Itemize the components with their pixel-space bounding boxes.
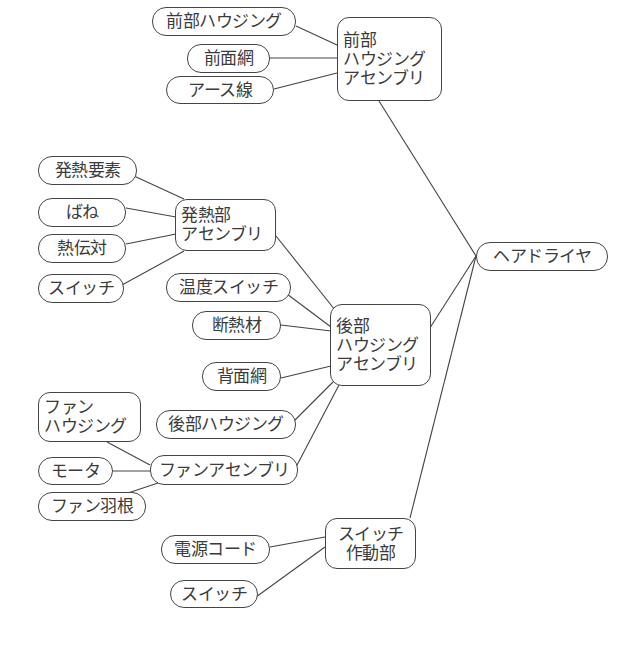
node-heater-assembly: 発熱部 アセンブリ — [175, 199, 276, 251]
edge-front-housing-to-front-assembly — [296, 26, 337, 45]
edge-rear-housing-to-rear-assembly — [294, 382, 333, 421]
node-fan-blade: ファン羽根 — [38, 492, 146, 521]
node-hairdryer: ヘアドライヤ — [476, 242, 608, 271]
node-label: ファンアセンブリ — [159, 461, 290, 480]
node-rear-housing-assembly: 後部 ハウジング アセンブリ — [330, 304, 431, 386]
node-label: ファン ハウジング — [44, 398, 127, 436]
node-label: ばね — [66, 203, 99, 222]
edge-rear-assembly-to-hairdryer — [426, 256, 476, 334]
node-label: 前部ハウジング — [166, 12, 282, 31]
node-switch-actuator: スイッチ 作動部 — [325, 518, 416, 569]
node-label: 発熱部 アセンブリ — [181, 206, 263, 244]
node-label: 後部 ハウジング アセンブリ — [336, 317, 419, 374]
node-label: ヘアドライヤ — [493, 247, 591, 266]
node-motor: モータ — [38, 457, 113, 485]
edge-switch-actuator-to-hairdryer — [410, 256, 476, 518]
node-label: スイッチ 作動部 — [338, 525, 404, 563]
hairdryer-parts-tree: ヘアドライヤ 前部 ハウジング アセンブリ 前部ハウジング 前面網 アース線 発… — [0, 0, 632, 650]
node-label: 電源コード — [174, 540, 257, 559]
node-front-housing: 前部ハウジング — [152, 7, 296, 36]
edge-rear-mesh-to-rear-assembly — [281, 366, 331, 378]
node-label: スイッチ — [181, 585, 247, 604]
node-actuator-switch: スイッチ — [170, 580, 258, 608]
connector-lines — [0, 0, 632, 650]
node-label: 背面網 — [217, 367, 267, 386]
node-spring: ばね — [38, 198, 126, 227]
edge-insulation-to-rear-assembly — [281, 325, 331, 331]
edge-spring-to-heater-assembly — [126, 208, 176, 217]
node-power-cord: 電源コード — [161, 535, 270, 564]
node-label: アース線 — [188, 81, 252, 100]
node-label: 後部ハウジング — [168, 415, 284, 434]
node-thermocouple: 熱伝対 — [38, 234, 126, 263]
node-fan-assembly: ファンアセンブリ — [150, 455, 298, 485]
node-label: 温度スイッチ — [179, 278, 278, 297]
edge-front-assembly-to-hairdryer — [379, 101, 476, 256]
node-label: ファン羽根 — [51, 497, 134, 516]
node-heater-switch: スイッチ — [38, 274, 124, 303]
edge-temp-switch-to-rear-assembly — [287, 294, 331, 327]
node-front-housing-assembly: 前部 ハウジング アセンブリ — [337, 17, 442, 101]
node-rear-mesh: 背面網 — [202, 362, 281, 391]
node-label: 断熱材 — [212, 316, 262, 335]
node-front-mesh: 前面網 — [187, 44, 270, 73]
edge-fan-housing-to-fan-assembly — [107, 442, 150, 465]
node-label: 前面網 — [204, 49, 254, 68]
node-insulation: 断熱材 — [192, 311, 281, 340]
node-ground-wire: アース線 — [166, 76, 274, 104]
node-label: モータ — [51, 462, 101, 481]
node-heating-element: 発熱要素 — [38, 156, 137, 185]
node-label: 熱伝対 — [57, 239, 107, 258]
node-fan-housing: ファン ハウジング — [38, 392, 141, 442]
node-rear-housing: 後部ハウジング — [156, 410, 296, 439]
edge-heating-element-to-heater-assembly — [134, 176, 184, 199]
node-temperature-switch: 温度スイッチ — [166, 273, 291, 302]
edge-ground-wire-to-front-assembly — [274, 73, 337, 89]
node-label: 発熱要素 — [55, 161, 121, 180]
node-label: スイッチ — [48, 279, 114, 298]
edge-power-cord-to-switch-actuator — [270, 537, 325, 547]
edge-thermocouple-to-heater-assembly — [126, 234, 176, 244]
node-label: 前部 ハウジング アセンブリ — [343, 31, 426, 88]
